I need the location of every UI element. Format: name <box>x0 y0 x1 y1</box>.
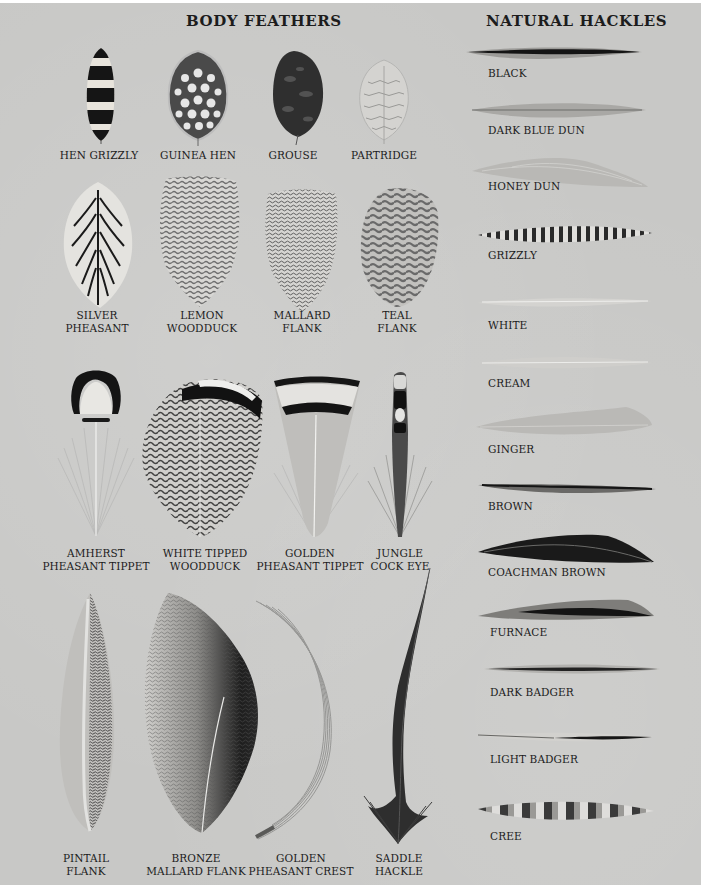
brown-hackle-icon <box>478 479 656 499</box>
pintail-flank-feather-icon <box>54 591 120 835</box>
grizzly-hackle-icon <box>478 219 652 249</box>
dark-blue-dun-hackle-icon <box>472 98 646 124</box>
dark-badger-hackle-icon <box>484 661 660 677</box>
white-tipped-woodduck-label: WHITE TIPPEDWOODDUCK <box>163 547 248 573</box>
ginger-label: GINGER <box>488 443 534 456</box>
silver-pheasant-label: SILVERPHEASANT <box>65 309 128 335</box>
bronze-mallard-flank-feather-icon <box>142 587 262 837</box>
white-hackle-icon <box>478 295 652 311</box>
light-badger-hackle-icon <box>474 729 654 745</box>
grouse-feather-icon <box>270 49 326 145</box>
amherst-pheasant-tippet-feather-icon <box>54 368 138 540</box>
amherst-pheasant-tippet-label: AMHERSTPHEASANT TIPPET <box>42 547 149 573</box>
honey-dun-label: HONEY DUN <box>488 180 560 193</box>
saddle-hackle-label: SADDLEHACKLE <box>375 852 423 878</box>
jungle-cock-eye-feather-icon <box>362 371 438 541</box>
brown-label: BROWN <box>488 500 533 513</box>
cree-label: CREE <box>490 830 522 843</box>
teal-flank-feather-icon <box>358 185 440 309</box>
lemon-woodduck-feather-icon <box>156 175 244 309</box>
hen-grizzly-label: HEN GRIZZLY <box>60 149 139 162</box>
white-label: WHITE <box>488 319 527 332</box>
pintail-flank-label: PINTAILFLANK <box>63 852 109 878</box>
black-hackle-icon <box>466 43 642 67</box>
coachman-brown-label: COACHMAN BROWN <box>488 566 606 579</box>
teal-flank-label: TEALFLANK <box>377 309 416 335</box>
grizzly-label: GRIZZLY <box>488 249 537 262</box>
silver-pheasant-feather-icon <box>60 180 136 310</box>
white-tipped-woodduck-feather-icon <box>138 375 264 540</box>
furnace-hackle-icon <box>478 594 654 622</box>
mallard-flank-feather-icon <box>262 188 342 312</box>
partridge-label: PARTRIDGE <box>351 149 417 162</box>
feather-chart-plate: BODY FEATHERS HEN GRIZZLY <box>0 3 701 885</box>
golden-pheasant-crest-label: GOLDENPHEASANT CREST <box>249 852 354 878</box>
coachman-brown-hackle-icon <box>478 528 654 568</box>
guinea-hen-label: GUINEA HEN <box>160 149 236 162</box>
natural-hackles-heading: NATURAL HACKLES <box>486 12 667 30</box>
partridge-feather-icon <box>356 58 412 144</box>
dark-blue-dun-label: DARK BLUE DUN <box>488 124 585 137</box>
dark-badger-label: DARK BADGER <box>490 686 574 699</box>
saddle-hackle-feather-icon <box>362 566 436 850</box>
cream-label: CREAM <box>488 377 530 390</box>
black-label: BLACK <box>488 67 527 80</box>
lemon-woodduck-label: LEMONWOODDUCK <box>167 309 237 335</box>
guinea-hen-feather-icon <box>165 48 231 146</box>
cream-hackle-icon <box>478 353 652 373</box>
furnace-label: FURNACE <box>490 626 547 639</box>
golden-pheasant-crest-feather-icon <box>252 601 338 841</box>
grouse-label: GROUSE <box>268 149 317 162</box>
body-feathers-heading: BODY FEATHERS <box>186 12 342 30</box>
ginger-hackle-icon <box>476 401 654 443</box>
bronze-mallard-flank-label: BRONZEMALLARD FLANK <box>146 852 246 878</box>
cree-hackle-icon <box>478 795 654 829</box>
golden-pheasant-tippet-feather-icon <box>268 373 364 541</box>
light-badger-label: LIGHT BADGER <box>490 753 578 766</box>
hen-grizzly-feather-icon <box>84 46 118 144</box>
mallard-flank-label: MALLARDFLANK <box>274 309 331 335</box>
golden-pheasant-tippet-label: GOLDENPHEASANT TIPPET <box>256 547 363 573</box>
